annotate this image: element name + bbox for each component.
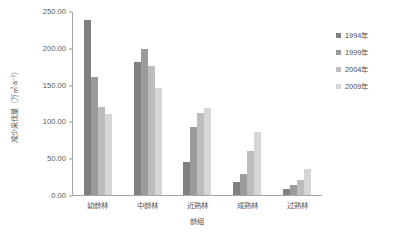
- x-axis-title: 龄组: [72, 215, 322, 226]
- legend-label: 2009年: [345, 83, 368, 90]
- x-tick-label: 过熟林: [287, 199, 308, 210]
- bar: [204, 108, 211, 195]
- bar: [254, 132, 261, 195]
- bar: [233, 182, 240, 195]
- legend-label: 1999年: [345, 49, 368, 56]
- bar: [91, 77, 98, 195]
- bar: [134, 62, 141, 195]
- bar: [155, 88, 162, 195]
- y-tick-label: 250.00: [43, 8, 66, 16]
- bar: [283, 189, 290, 195]
- x-tick-label: 成熟林: [237, 199, 258, 210]
- bar-group: [283, 12, 311, 195]
- x-tick-label: 幼龄林: [87, 199, 108, 210]
- legend-swatch-icon: [336, 67, 341, 72]
- chart-legend: 1994年1999年2004年2009年: [336, 32, 410, 90]
- bar: [247, 151, 254, 195]
- bar: [148, 66, 155, 195]
- x-tick-label: 近熟林: [187, 199, 208, 210]
- y-tick-label: 150.00: [43, 82, 66, 90]
- bar: [141, 49, 148, 195]
- legend-item: 2004年: [336, 66, 410, 73]
- bar: [183, 162, 190, 195]
- bar: [98, 107, 105, 195]
- bar-group: [183, 12, 211, 195]
- bar: [190, 127, 197, 195]
- bar: [304, 169, 311, 195]
- legend-swatch-icon: [336, 50, 341, 55]
- legend-item: 1994年: [336, 32, 410, 39]
- legend-label: 1994年: [345, 32, 368, 39]
- bar: [290, 185, 297, 195]
- bar: [197, 113, 204, 195]
- y-tick-label: 100.00: [43, 119, 66, 127]
- bar-group: [84, 12, 112, 195]
- bar: [297, 180, 304, 195]
- x-tick-label: 中龄林: [137, 199, 158, 210]
- y-axis-title-text: 减少采伐量（万㎥·a⁻¹）: [11, 68, 18, 144]
- x-axis-ticks: 幼龄林中龄林近熟林成熟林过熟林: [72, 199, 322, 213]
- legend-item: 2009年: [336, 83, 410, 90]
- bar-group: [134, 12, 162, 195]
- y-tick-label: 0.00: [51, 192, 66, 200]
- bar: [240, 174, 247, 195]
- bar-chart: 减少采伐量（万㎥·a⁻¹） 0.0050.00100.00150.00200.0…: [0, 0, 412, 243]
- legend-swatch-icon: [336, 33, 341, 38]
- y-tick-label: 50.00: [47, 155, 66, 163]
- bar: [84, 20, 91, 195]
- y-axis-title: 减少采伐量（万㎥·a⁻¹）: [8, 46, 22, 166]
- legend-swatch-icon: [336, 84, 341, 89]
- y-tick-label: 200.00: [43, 45, 66, 53]
- legend-label: 2004年: [345, 66, 368, 73]
- plot-area: [72, 12, 322, 196]
- bar: [105, 114, 112, 195]
- y-axis-ticks: 0.0050.00100.00150.00200.00250.00: [26, 10, 70, 196]
- bar-group: [233, 12, 261, 195]
- legend-item: 1999年: [336, 49, 410, 56]
